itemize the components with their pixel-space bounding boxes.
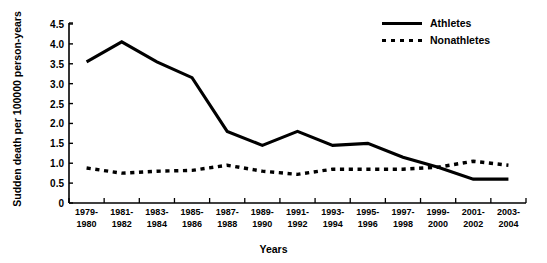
x-axis-tick-label: 1979-1980 xyxy=(75,207,98,230)
series-line-athletes xyxy=(87,42,509,179)
x-axis-tick-labels: 1979-19801981-19821983-19841985-19861987… xyxy=(69,207,526,241)
x-axis-tick-label: 1989-1990 xyxy=(251,207,274,230)
x-axis-tick-label: 1991-1992 xyxy=(286,207,309,230)
x-axis-tick-label: 1985-1986 xyxy=(181,207,204,230)
x-axis-tick-label: 1993-1994 xyxy=(321,207,344,230)
x-axis-tick-label: 1999-2000 xyxy=(427,207,450,230)
x-axis-title: Years xyxy=(0,243,547,255)
x-axis-tick-label: 1997-1998 xyxy=(391,207,414,230)
legend-label: Nonathletes xyxy=(430,34,490,46)
chart-figure: Sudden death per 100000 person-years 00.… xyxy=(0,0,547,263)
x-axis-tick-label: 1983-1984 xyxy=(145,207,168,230)
legend-swatch-dotted-line-icon xyxy=(382,34,422,46)
x-axis-tick-label: 2001-2002 xyxy=(462,207,485,230)
legend-label: Athletes xyxy=(430,17,471,29)
legend-item-athletes: Athletes xyxy=(382,14,490,31)
x-axis-tick-label: 1995-1996 xyxy=(356,207,379,230)
x-axis-tick-label: 1987-1988 xyxy=(216,207,239,230)
chart-legend: Athletes Nonathletes xyxy=(382,14,490,48)
legend-item-nonathletes: Nonathletes xyxy=(382,31,490,48)
x-axis-tick-label: 1981-1982 xyxy=(110,207,133,230)
legend-swatch-solid-line-icon xyxy=(382,17,422,29)
x-axis-tick-label: 2003-2004 xyxy=(497,207,520,230)
series-line-nonathletes xyxy=(87,161,509,174)
